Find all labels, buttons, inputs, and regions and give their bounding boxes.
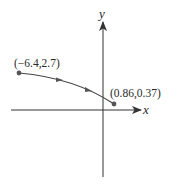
x-axis-label: x — [142, 102, 149, 117]
coordinate-diagram: x y (−6.4,2.7) (0.86,0.37) — [0, 0, 172, 187]
trajectory-curve — [19, 73, 114, 104]
end-point — [112, 102, 117, 107]
end-point-label: (0.86,0.37) — [110, 87, 161, 100]
start-point-label: (−6.4,2.7) — [14, 57, 60, 70]
direction-arrow-icon — [56, 78, 63, 83]
start-point — [17, 71, 22, 76]
y-axis-label: y — [97, 6, 105, 21]
